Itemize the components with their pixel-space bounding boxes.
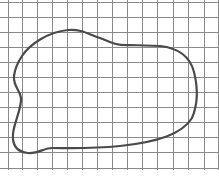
background	[0, 0, 219, 176]
grid-figure	[0, 0, 219, 176]
